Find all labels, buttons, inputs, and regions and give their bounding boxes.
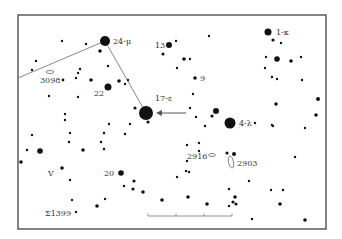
star-dot <box>117 79 121 83</box>
star-dot <box>166 42 172 48</box>
star-dot <box>188 171 190 173</box>
star-dot <box>98 49 102 53</box>
star-dot <box>118 170 124 176</box>
star-dot <box>79 68 81 70</box>
label-3098: 3098 <box>40 76 60 85</box>
label-sigma-1399: Σ1399 <box>45 209 71 218</box>
star-dot <box>205 202 209 206</box>
star-dot <box>81 148 85 152</box>
star-dot <box>314 113 318 117</box>
star-dot <box>132 179 135 182</box>
label-13: 13 <box>155 41 165 50</box>
star-dot <box>129 123 131 125</box>
star-dot <box>265 56 267 58</box>
star-dot <box>123 185 125 187</box>
star-dot <box>282 189 284 191</box>
star-dot <box>89 78 93 82</box>
star-dot <box>100 141 102 143</box>
star-dot <box>124 133 126 135</box>
star-dot <box>228 188 230 190</box>
star-dot <box>185 170 187 172</box>
star-dot <box>232 152 236 156</box>
star-dot <box>189 58 191 60</box>
star-dot <box>186 195 190 199</box>
star-dot <box>204 125 206 127</box>
label-v: V <box>47 169 54 178</box>
star-dot <box>186 144 188 146</box>
star-dot <box>85 43 87 45</box>
star-dot <box>228 205 230 207</box>
star-dot <box>175 40 177 42</box>
star-dot <box>265 29 272 36</box>
label-4-lambda: 4-λ <box>239 119 252 128</box>
star-dot <box>161 52 164 55</box>
star-dot <box>68 141 70 143</box>
star-dot <box>289 59 293 63</box>
star-dot <box>176 67 178 69</box>
star-dot <box>107 65 109 67</box>
star-dot <box>139 106 153 120</box>
star-dot <box>192 93 194 95</box>
label-24-mu: 24-μ <box>113 37 131 46</box>
star-dot <box>233 195 237 199</box>
star-dot <box>294 156 296 158</box>
star-dot <box>31 134 33 136</box>
star-dot <box>251 218 253 220</box>
star-dot <box>304 127 306 129</box>
star-dot <box>274 102 278 106</box>
chart-background <box>0 0 342 239</box>
star-dot <box>26 149 28 151</box>
star-dot <box>103 132 105 134</box>
label-20: 20 <box>104 169 114 178</box>
star-dot <box>64 113 66 115</box>
star-dot <box>141 190 145 194</box>
star-dot <box>124 83 126 85</box>
star-chart: 24-μ 1-κ 13 9 22 3098 17-ε 4-λ 2916 2903… <box>0 0 342 239</box>
star-dot <box>303 218 307 222</box>
star-dot <box>300 56 302 58</box>
star-dot <box>31 69 33 71</box>
star-dot <box>95 204 99 208</box>
star-dot <box>208 35 210 37</box>
star-dot <box>131 187 134 190</box>
star-dot <box>278 202 282 206</box>
star-dot <box>198 142 200 144</box>
star-dot <box>103 148 105 150</box>
label-1-kappa: 1-κ <box>276 28 289 37</box>
star-dot <box>272 125 274 127</box>
label-2916: 2916 <box>187 152 207 161</box>
label-2903: 2903 <box>237 159 257 168</box>
star-dot <box>225 118 236 129</box>
star-dot <box>213 108 219 114</box>
star-dot <box>48 95 50 97</box>
star-dot <box>280 42 282 44</box>
star-dot <box>176 176 178 178</box>
star-dot <box>160 198 164 202</box>
star-dot <box>271 38 274 41</box>
star-dot <box>71 199 73 201</box>
star-dot <box>254 122 256 124</box>
star-dot <box>19 160 23 164</box>
star-dot <box>231 200 234 203</box>
star-dot <box>100 36 110 46</box>
label-9: 9 <box>200 74 205 83</box>
star-dot <box>264 67 266 69</box>
star-dot <box>133 106 136 109</box>
label-17-epsilon: 17-ε <box>155 94 172 103</box>
star-dot <box>146 120 149 123</box>
star-dot <box>69 179 71 181</box>
star-dot <box>61 40 63 42</box>
star-dot <box>301 79 303 81</box>
star-dot <box>316 97 320 101</box>
star-dot <box>248 180 250 182</box>
star-dot <box>193 76 197 80</box>
star-dot <box>77 72 79 74</box>
star-dot <box>75 77 77 79</box>
star-dot <box>62 79 65 82</box>
star-dot <box>225 151 228 154</box>
star-dot <box>64 119 66 121</box>
star-dot <box>274 56 280 62</box>
star-dot <box>270 189 272 191</box>
label-22: 22 <box>94 89 104 98</box>
star-dot <box>75 211 77 213</box>
